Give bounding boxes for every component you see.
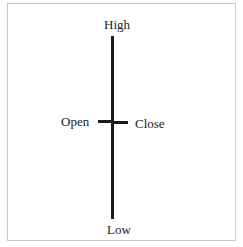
close-label: Close [135, 117, 165, 131]
open-label: Open [61, 115, 89, 129]
high-low-line [111, 36, 114, 219]
close-tick [112, 121, 128, 124]
low-label: Low [107, 223, 131, 237]
high-label: High [104, 18, 130, 32]
open-tick [98, 120, 113, 123]
